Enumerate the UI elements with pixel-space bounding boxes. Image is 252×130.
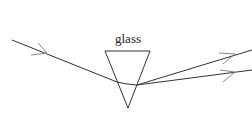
incident-ray — [12, 40, 117, 82]
internal-ray — [117, 82, 137, 85]
emergent-ray-upper-arrow-icon — [219, 53, 235, 64]
emergent-ray-lower-arrow-icon — [220, 70, 235, 82]
diagram-svg — [0, 0, 252, 130]
prism-diagram: glass — [0, 0, 252, 130]
emergent-ray-upper — [137, 50, 252, 85]
prism-label: glass — [115, 32, 141, 45]
